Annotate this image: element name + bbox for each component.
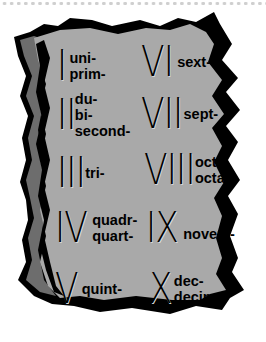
numeral-entry-2: II du- bi- second- [57,91,130,139]
numeral-entry-8: VIII oct- octav- [144,149,238,191]
numeral-entry-6: VI sext- [141,41,211,83]
roman-numeral: VIII [144,149,195,191]
roman-numeral: III [57,152,85,194]
prefix: sept- [184,106,219,122]
roman-numeral: I [57,45,66,87]
prefix: octav- [195,170,238,186]
roman-numeral: II [57,94,76,136]
prefix-list: dec- decim- [174,273,221,305]
prefix-list: sept- [184,106,219,122]
numeral-entry-3: III tri- [57,152,105,194]
prefix: quint- [82,281,122,297]
numeral-entry-10: X dec- decim- [149,268,221,310]
numeral-entry-5: V quint- [55,268,122,310]
prefix: oct- [195,154,238,170]
roman-numeral: X [149,268,172,310]
prefix: novem- [183,226,235,242]
prefix-list: quint- [82,281,122,297]
numeral-entry-1: I uni- prim- [57,45,106,87]
prefix: du- [75,91,131,107]
numeral-entry-4: IV quadr- quart- [55,207,137,249]
prefix: quart- [92,228,137,244]
prefix: dec- [174,273,221,289]
roman-numeral: V [55,268,78,310]
prefix: bi- [75,107,131,123]
prefix: sext- [177,54,211,70]
prefix-list: tri- [85,165,104,181]
prefix-list: oct- octav- [195,154,238,186]
prefix-list: uni- prim- [69,50,105,82]
prefix: decim- [174,289,221,305]
roman-numeral: IV [55,207,87,249]
prefix: prim- [69,66,105,82]
prefix-list: novem- [183,226,235,242]
prefix-list: quadr- quart- [92,212,137,244]
prefix: quadr- [92,212,137,228]
prefix: uni- [69,50,105,66]
prefix-list: sext- [177,54,211,70]
numeral-entry-9: IX novem- [146,207,235,249]
roman-numeral: VII [141,93,182,135]
prefix: tri- [85,165,104,181]
numeral-entry-7: VII sept- [141,93,218,135]
prefix: second- [75,123,131,139]
roman-numeral: IX [146,207,178,249]
prefix-list: du- bi- second- [75,91,131,139]
roman-numeral: VI [141,41,173,83]
